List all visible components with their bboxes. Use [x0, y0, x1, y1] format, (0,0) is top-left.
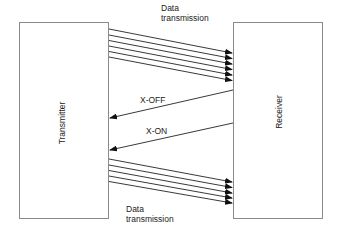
- bottom-data-label-line2: transmission: [126, 214, 174, 224]
- diagram-svg: Transmitter Receiver Data transmission X…: [0, 0, 341, 234]
- transmitter-label: Transmitter: [57, 102, 67, 145]
- bottom-data-label-line1: Data: [126, 204, 144, 214]
- xon-label: X-ON: [146, 126, 167, 136]
- xoff-arrow: [110, 90, 233, 118]
- data-transmission-arrows-top: [109, 29, 232, 81]
- xoff-label: X-OFF: [140, 95, 166, 105]
- flow-control-diagram: Transmitter Receiver Data transmission X…: [0, 0, 341, 234]
- transmitter-node: Transmitter: [20, 23, 109, 219]
- receiver-node: Receiver: [234, 23, 323, 219]
- top-data-label-line1: Data: [161, 3, 179, 13]
- top-data-label-line2: transmission: [161, 13, 209, 23]
- receiver-label: Receiver: [274, 95, 284, 129]
- xon-arrow: [110, 123, 233, 150]
- data-transmission-arrows-bottom: [109, 159, 232, 203]
